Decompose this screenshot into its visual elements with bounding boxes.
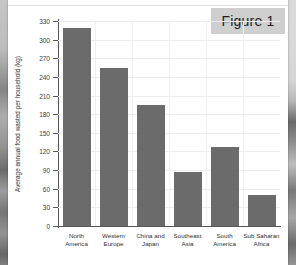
x-axis-category-label: Western Europe <box>95 232 132 248</box>
y-axis-tick-label: 120 <box>39 148 50 155</box>
y-axis-tick-mark <box>53 133 58 134</box>
document-page: Figure 1 Average annual food wasted per … <box>8 0 288 265</box>
x-axis-category-label: South America <box>206 232 243 248</box>
y-axis-tick-mark <box>53 77 58 78</box>
x-axis-category-label: Southeast Asia <box>169 232 206 248</box>
y-axis-tick-mark <box>53 40 58 41</box>
y-axis-tick-mark <box>53 114 58 115</box>
x-axis-category-label: Sub Saharan Africa <box>243 232 280 248</box>
x-axis-category-label: North America <box>58 232 95 248</box>
vertical-gridline <box>169 21 170 226</box>
bar <box>174 172 202 226</box>
x-axis-line <box>58 226 281 227</box>
bar-chart: Average annual food wasted per household… <box>18 12 283 262</box>
document-viewer: Figure 1 Average annual food wasted per … <box>0 0 296 265</box>
page-top-rule <box>8 5 288 6</box>
bar <box>63 28 91 226</box>
y-axis-tick-label: 60 <box>43 185 50 192</box>
vertical-gridline <box>95 21 96 226</box>
y-axis-tick-mark <box>53 151 58 152</box>
y-axis-tick-mark <box>53 189 58 190</box>
y-axis-tick-mark <box>53 21 58 22</box>
vertical-gridline <box>243 21 244 226</box>
bar <box>137 105 165 226</box>
y-axis-tick-label: 330 <box>39 18 50 25</box>
y-axis-tick-mark <box>53 207 58 208</box>
plot-area: 0306090120150180210240270300330 <box>58 21 280 226</box>
y-axis-tick-label: 270 <box>39 55 50 62</box>
y-axis-tick-mark <box>53 96 58 97</box>
y-axis-tick-label: 150 <box>39 129 50 136</box>
y-axis-tick-mark <box>53 170 58 171</box>
bar <box>211 147 239 226</box>
vertical-gridline <box>206 21 207 226</box>
y-axis-tick-label: 30 <box>43 204 50 211</box>
y-axis-tick-label: 210 <box>39 92 50 99</box>
y-axis-title: Average annual food wasted per household… <box>14 56 21 192</box>
vertical-gridline <box>132 21 133 226</box>
x-axis-category-label: China and Japan <box>132 232 169 248</box>
y-axis-tick-mark <box>53 226 58 227</box>
bar <box>100 68 128 226</box>
y-axis-tick-label: 0 <box>46 223 50 230</box>
viewer-right-page-edge <box>287 0 296 265</box>
y-axis-tick-label: 90 <box>43 167 50 174</box>
y-axis-tick-label: 300 <box>39 36 50 43</box>
bar <box>248 195 276 226</box>
y-axis-tick-label: 240 <box>39 73 50 80</box>
y-axis-tick-label: 180 <box>39 111 50 118</box>
y-axis-tick-mark <box>53 58 58 59</box>
